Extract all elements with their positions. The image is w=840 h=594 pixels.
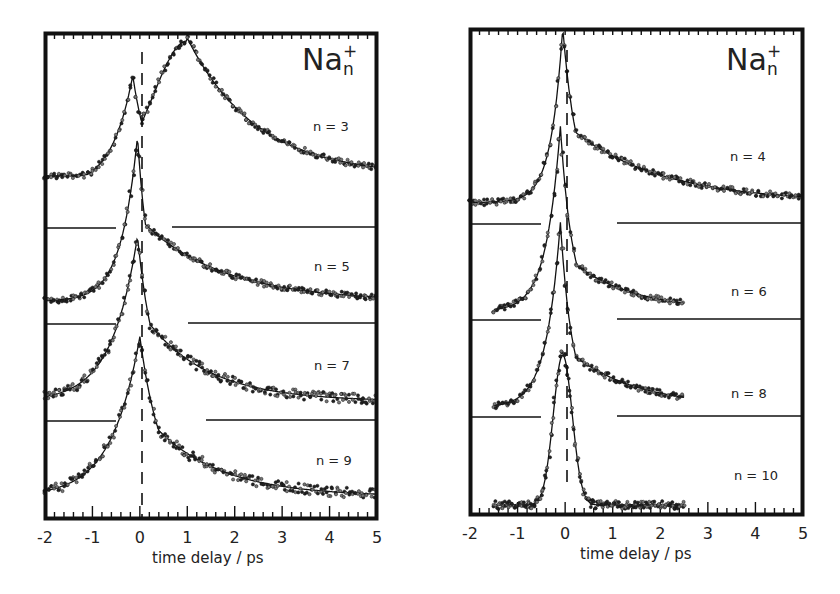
x-tick-label: 4: [324, 528, 334, 547]
right-plot-frame: [471, 30, 803, 515]
x-tick-label: -1: [84, 528, 100, 547]
left-label-n3: n = 3: [313, 119, 349, 134]
x-tick-label: 5: [798, 524, 808, 543]
right-label-n10: n = 10: [734, 468, 778, 483]
right-axis-ticks: [470, 29, 803, 514]
left-title-main: Na: [302, 42, 343, 77]
x-tick-label: 3: [277, 528, 287, 547]
right-species-title: Na + n: [726, 41, 781, 79]
right-label-n4: n = 4: [730, 149, 766, 164]
x-tick-label: 1: [182, 528, 192, 547]
left-baselines: [47, 227, 376, 421]
right-x-tick-labels: -2-1012345: [462, 524, 808, 543]
right-panel: Na + n n = 4 n = 6 n = 8 n = 10 -2-10123…: [462, 29, 808, 563]
x-tick-label: 2: [230, 528, 240, 547]
x-tick-label: -2: [462, 524, 478, 543]
left-axis-ticks: [45, 33, 377, 518]
right-title-main: Na: [726, 42, 767, 77]
x-tick-label: 1: [608, 524, 618, 543]
x-tick-label: -1: [510, 524, 526, 543]
x-tick-label: 2: [655, 524, 665, 543]
x-tick-label: 5: [372, 528, 382, 547]
left-species-title: Na + n: [302, 41, 357, 79]
x-tick-label: 4: [750, 524, 760, 543]
left-title-sup: +: [343, 41, 357, 61]
left-plot-frame: [46, 34, 377, 519]
x-tick-label: -2: [37, 528, 53, 547]
right-label-n6: n = 6: [731, 284, 767, 299]
left-title-sub: n: [343, 59, 354, 79]
left-label-n9: n = 9: [316, 453, 352, 468]
left-x-tick-labels: -2-1012345: [37, 528, 382, 547]
right-label-n8: n = 8: [731, 386, 767, 401]
left-label-n7: n = 7: [314, 358, 350, 373]
left-x-axis-label: time delay / ps: [152, 549, 264, 567]
right-title-sub: n: [767, 59, 778, 79]
x-tick-label: 3: [703, 524, 713, 543]
left-label-n5: n = 5: [314, 259, 350, 274]
right-traces: [468, 33, 804, 510]
x-tick-label: 0: [560, 524, 570, 543]
left-panel: Na + n n = 3 n = 5 n = 7 n = 9 -2-101234…: [37, 33, 382, 567]
x-tick-label: 0: [135, 528, 145, 547]
right-title-sup: +: [767, 41, 781, 61]
figure-canvas: Na + n n = 3 n = 5 n = 7 n = 9 -2-101234…: [0, 0, 840, 594]
right-x-axis-label: time delay / ps: [580, 545, 692, 563]
